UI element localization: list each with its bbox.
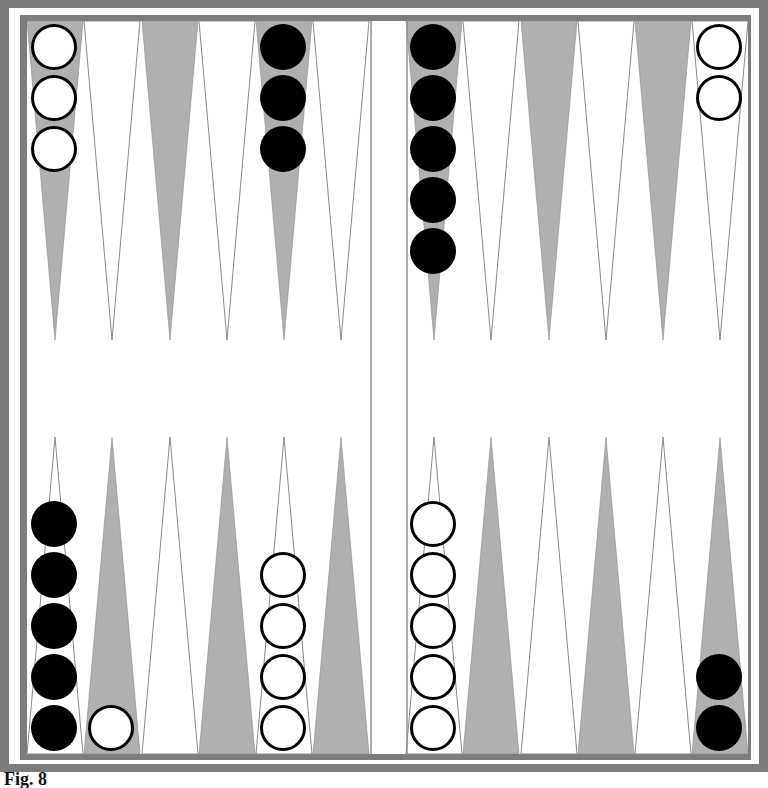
black-checker[interactable] [31,552,77,598]
white-checker[interactable] [33,77,76,120]
black-checker[interactable] [31,705,77,751]
white-checker[interactable] [412,656,455,699]
black-checker[interactable] [31,501,77,547]
backgammon-board [0,0,768,772]
white-checker[interactable] [33,128,76,171]
black-checker[interactable] [410,24,456,70]
white-checker[interactable] [262,656,305,699]
black-checker[interactable] [410,126,456,172]
black-checker[interactable] [410,177,456,223]
white-checker[interactable] [412,605,455,648]
figure-caption: Fig. 8 [4,770,47,788]
white-checker[interactable] [412,554,455,597]
white-checker[interactable] [412,503,455,546]
white-checker[interactable] [90,707,133,750]
black-checker[interactable] [410,228,456,274]
black-checker[interactable] [31,654,77,700]
white-checker[interactable] [33,26,76,69]
black-checker[interactable] [260,24,306,70]
playing-surface [27,21,748,754]
white-checker[interactable] [262,605,305,648]
white-checker[interactable] [262,554,305,597]
black-checker[interactable] [410,75,456,121]
black-checker[interactable] [696,705,742,751]
white-checker[interactable] [698,77,741,120]
white-checker[interactable] [698,26,741,69]
black-checker[interactable] [31,603,77,649]
black-checker[interactable] [696,654,742,700]
white-checker[interactable] [262,707,305,750]
white-checker[interactable] [412,707,455,750]
black-checker[interactable] [260,75,306,121]
black-checker[interactable] [260,126,306,172]
